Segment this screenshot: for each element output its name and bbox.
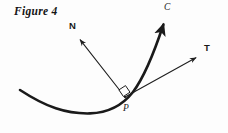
vector-label-t: T (204, 43, 210, 53)
vector-label-n: N (69, 21, 76, 31)
vector-n-line (80, 40, 125, 97)
figure-drawing-canvas (0, 0, 228, 133)
curve-label-c: C (164, 3, 170, 13)
figure-container: Figure 4 C N T P (0, 0, 228, 133)
curve-c-path (20, 25, 163, 114)
point-label-p: P (123, 104, 129, 114)
point-p-marker (124, 96, 126, 98)
figure-caption: Figure 4 (14, 6, 58, 18)
vector-t-line (125, 58, 196, 97)
